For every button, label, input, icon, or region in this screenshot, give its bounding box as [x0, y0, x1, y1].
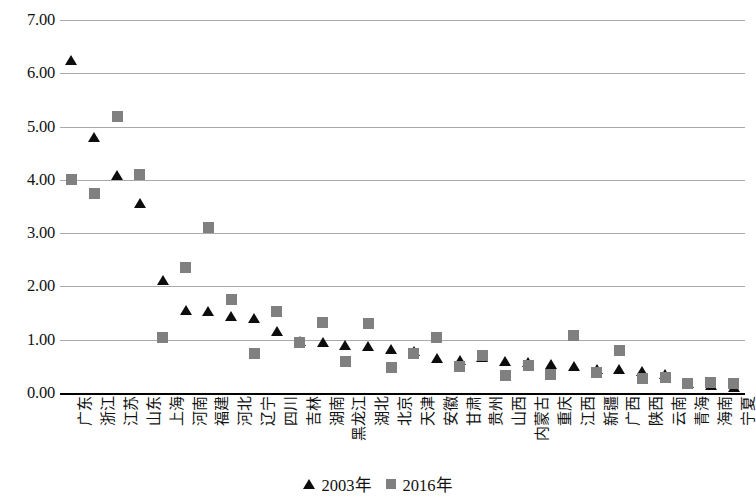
- x-tick-label-text: 宁夏: [741, 396, 756, 426]
- x-tick-label: 安徽: [444, 396, 459, 426]
- x-tick-label-text: 陕西: [649, 396, 664, 426]
- data-point: [157, 332, 168, 343]
- gridline: [60, 20, 745, 21]
- x-tick-label-text: 山西: [512, 396, 527, 426]
- legend-entry[interactable]: 2016年: [386, 472, 453, 496]
- x-tick-label: 重庆: [558, 396, 573, 426]
- data-point: [180, 305, 192, 315]
- x-tick-label-text: 福建: [215, 396, 230, 426]
- data-point: [226, 294, 237, 305]
- data-point: [65, 55, 77, 65]
- x-tick-label-text: 甘肃: [467, 396, 482, 426]
- x-tick-label: 甘肃: [467, 396, 482, 426]
- data-point: [317, 317, 328, 328]
- x-tick-label-text: 广东: [78, 396, 93, 426]
- x-tick-label: 辽宁: [261, 396, 276, 426]
- x-tick-label-text: 黑龙江: [352, 396, 367, 441]
- x-tick-label: 天津: [421, 396, 436, 426]
- data-point: [568, 330, 579, 341]
- x-tick-label: 海南: [718, 396, 733, 426]
- x-tick-label: 新疆: [604, 396, 619, 426]
- square-marker-icon: [386, 479, 396, 489]
- x-axis: 广东浙江江苏山东上海河南福建河北辽宁四川吉林湖南黑龙江湖北北京天津安徽甘肃贵州山…: [60, 396, 745, 466]
- y-tick-label: 5.00: [3, 119, 55, 135]
- data-point: [728, 378, 739, 389]
- gridline: [60, 127, 745, 128]
- x-tick-label-text: 辽宁: [261, 396, 276, 426]
- x-tick-label-text: 江苏: [124, 396, 139, 426]
- x-tick-label-text: 广西: [626, 396, 641, 426]
- x-tick-label: 江西: [581, 396, 596, 426]
- x-tick-label-text: 重庆: [558, 396, 573, 426]
- x-tick-label: 内蒙古: [535, 396, 550, 441]
- triangle-marker-icon: [303, 479, 315, 489]
- x-tick-label-text: 青海: [695, 396, 710, 426]
- data-point: [523, 360, 534, 371]
- x-tick-label: 北京: [398, 396, 413, 426]
- data-point: [408, 348, 419, 359]
- x-tick-label: 湖北: [375, 396, 390, 426]
- data-point: [271, 326, 283, 336]
- x-tick-label-text: 吉林: [307, 396, 322, 426]
- data-point: [386, 362, 397, 373]
- data-point: [500, 370, 511, 381]
- data-point: [248, 313, 260, 323]
- data-point: [111, 170, 123, 180]
- x-tick-label: 云南: [672, 396, 687, 426]
- x-tick-label-text: 海南: [718, 396, 733, 426]
- plot-area: [60, 20, 745, 393]
- data-point: [431, 353, 443, 363]
- data-point: [682, 378, 693, 389]
- x-tick-label: 湖南: [330, 396, 345, 426]
- data-point: [88, 132, 100, 142]
- x-tick-label: 陕西: [649, 396, 664, 426]
- x-tick-label: 宁夏: [741, 396, 756, 426]
- x-tick-label-text: 河北: [238, 396, 253, 426]
- x-tick-label: 广东: [78, 396, 93, 426]
- y-tick-label: 1.00: [3, 332, 55, 348]
- data-point: [180, 262, 191, 273]
- data-point: [339, 340, 351, 350]
- x-tick-label-text: 河南: [193, 396, 208, 426]
- data-point: [202, 306, 214, 316]
- data-point: [660, 372, 671, 383]
- y-tick-label: 2.00: [3, 278, 55, 294]
- data-point: [112, 111, 123, 122]
- data-point: [134, 169, 145, 180]
- x-tick-label-text: 安徽: [444, 396, 459, 426]
- gridline: [60, 286, 745, 287]
- y-tick-label: 6.00: [3, 65, 55, 81]
- x-tick-label-text: 上海: [170, 396, 185, 426]
- gridline: [60, 180, 745, 181]
- gridline: [60, 233, 745, 234]
- x-tick-label: 河北: [238, 396, 253, 426]
- chart-legend: 2003年2016年: [0, 470, 755, 497]
- data-point: [66, 174, 77, 185]
- data-point: [385, 344, 397, 354]
- data-point: [545, 369, 556, 380]
- x-tick-label: 上海: [170, 396, 185, 426]
- x-tick-label-text: 新疆: [604, 396, 619, 426]
- data-point: [431, 332, 442, 343]
- x-tick-label: 青海: [695, 396, 710, 426]
- x-axis-line: [60, 393, 745, 395]
- x-tick-label-text: 浙江: [101, 396, 116, 426]
- x-tick-label: 浙江: [101, 396, 116, 426]
- data-point: [340, 356, 351, 367]
- data-point: [317, 337, 329, 347]
- x-tick-label: 福建: [215, 396, 230, 426]
- x-tick-label-text: 内蒙古: [535, 396, 550, 441]
- x-tick-label: 贵州: [489, 396, 504, 426]
- data-point: [613, 364, 625, 374]
- x-tick-label-text: 山东: [147, 396, 162, 426]
- x-tick-label-text: 四川: [284, 396, 299, 426]
- x-tick-label: 广西: [626, 396, 641, 426]
- data-point: [614, 345, 625, 356]
- data-point: [454, 361, 465, 372]
- x-tick-label-text: 湖北: [375, 396, 390, 426]
- legend-entry[interactable]: 2003年: [303, 472, 372, 496]
- data-point: [705, 377, 716, 388]
- x-tick-label: 四川: [284, 396, 299, 426]
- x-tick-label-text: 云南: [672, 396, 687, 426]
